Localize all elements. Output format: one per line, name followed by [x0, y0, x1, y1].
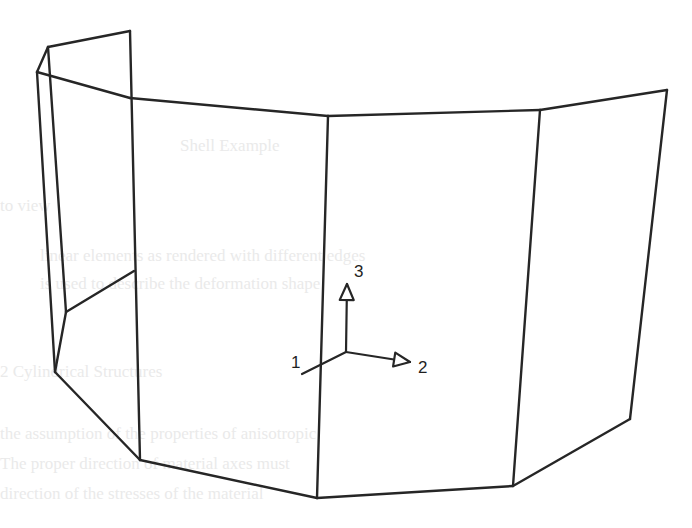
- axis-1-line: [302, 352, 346, 374]
- shell-wireframe-figure: 123: [0, 0, 692, 528]
- vertical-3: [513, 110, 540, 486]
- vertical-2: [317, 116, 328, 498]
- bottom-edge-3: [317, 486, 513, 498]
- top-flap-left: [37, 47, 48, 72]
- shell-edges: [37, 31, 667, 498]
- top-flap: [48, 31, 130, 47]
- axis-1-label: 1: [291, 353, 300, 372]
- top-edge-4: [540, 90, 667, 110]
- top-edge-3: [328, 110, 540, 116]
- inner-diag: [66, 271, 134, 312]
- bottom-edge-2: [140, 460, 317, 498]
- axis-3-label: 3: [354, 262, 363, 281]
- axis-triad: 123: [291, 262, 427, 377]
- axis-2-label: 2: [418, 358, 427, 377]
- vertical-4: [630, 90, 667, 419]
- axis-3-arrowhead-icon: [340, 284, 354, 300]
- bottom-edge-1: [55, 372, 140, 460]
- vertical-1: [130, 31, 140, 460]
- top-edge-2: [130, 98, 328, 116]
- axis-2-arrowhead-icon: [393, 353, 410, 367]
- bottom-edge-4: [513, 419, 630, 486]
- vertical-0b: [48, 47, 66, 312]
- inner-diag-2: [55, 312, 66, 372]
